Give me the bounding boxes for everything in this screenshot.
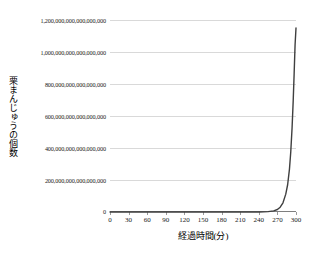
x-tick-label: 300	[285, 216, 307, 224]
x-tick-mark	[277, 212, 278, 215]
y-tick-row: 600,000,000,000,000,000	[14, 113, 106, 120]
y-tick-row: 800,000,000,000,000,000	[14, 81, 106, 88]
y-tick-label: 800,000,000,000,000,000	[14, 81, 106, 88]
y-tick-label: 1,000,000,000,000,000,000	[14, 49, 106, 56]
y-tick-label: 600,000,000,000,000,000	[14, 113, 106, 120]
y-tick-label: 200,000,000,000,000,000	[14, 177, 106, 184]
y-tick-label: 400,000,000,000,000,000	[14, 145, 106, 152]
x-tick-mark	[296, 212, 297, 215]
y-tick-row: 1,000,000,000,000,000,000	[14, 49, 106, 56]
y-tick-label: 1,200,000,000,000,000,000	[14, 17, 106, 24]
chart-container: 栗まんじゅうの個数 1,200,000,000,000,000,000 1,00…	[0, 0, 311, 254]
y-tick-label: 0	[14, 208, 106, 215]
y-tick-row: 1,200,000,000,000,000,000	[14, 17, 106, 24]
exponential-growth-curve	[110, 20, 296, 212]
y-tick-row: 400,000,000,000,000,000	[14, 145, 106, 152]
x-axis-title: 経過時間(分)	[110, 231, 296, 242]
plot-area	[110, 20, 296, 212]
y-tick-row: 0	[14, 208, 106, 215]
y-tick-row: 200,000,000,000,000,000	[14, 177, 106, 184]
